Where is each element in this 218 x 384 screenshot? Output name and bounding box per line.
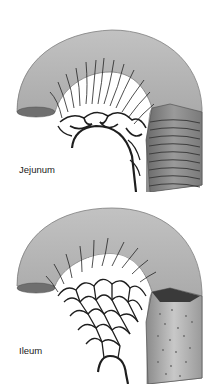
cut-section (146, 288, 202, 384)
jejunum-label: Jejunum (19, 164, 55, 175)
tube-open-end (17, 107, 55, 117)
ileum-label: Ileum (19, 345, 42, 356)
cut-section (146, 104, 202, 192)
jejunum-panel: Jejunum (0, 0, 218, 192)
ileum-panel: Ileum (0, 192, 218, 384)
tube-open-end (17, 283, 55, 293)
